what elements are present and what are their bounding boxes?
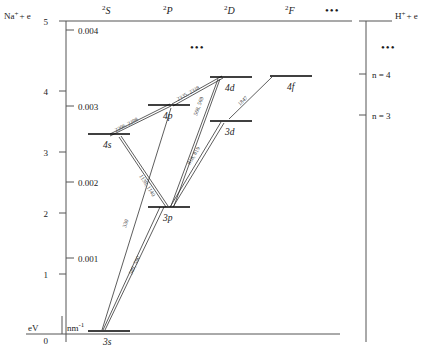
hydrogen-ion-label: H++ e xyxy=(395,10,418,21)
tick-label-wav-0004: 0.004 xyxy=(78,26,99,36)
transition-label-4d-3p: 568, 569 xyxy=(192,96,204,117)
tick-label-wav-0002: 0.002 xyxy=(78,178,98,188)
transition-label-4p-4s: 2206, 2208 xyxy=(114,116,139,133)
transition-label-3d-3p: 818, 819 xyxy=(186,145,201,165)
level-label-4d: 4d xyxy=(225,83,235,93)
levels-ellipsis-na: ••• xyxy=(190,41,205,53)
tick-label-ev-3: 3 xyxy=(44,148,49,158)
column-header-doublet-s: 2S xyxy=(102,4,111,16)
transition-label-4p-3s: 330 xyxy=(121,218,129,228)
unit-label-ev: eV xyxy=(28,323,39,333)
level-label-4s: 4s xyxy=(103,140,112,150)
hydrogen-level-label-n4: n = 4 xyxy=(372,70,391,80)
level-label-3s: 3s xyxy=(102,337,112,347)
transition-4s-3p-b xyxy=(121,136,168,206)
transition-4f-3d xyxy=(229,77,272,119)
transition-label-3p-3s: 589, 590 xyxy=(127,255,141,275)
tick-label-ev-5: 5 xyxy=(44,17,49,27)
tick-label-wav-0001: 0.001 xyxy=(78,254,98,264)
column-header-more-terms: ••• xyxy=(325,4,340,16)
tick-label-ev-4: 4 xyxy=(44,87,49,97)
transition-3d-3p-b xyxy=(173,123,224,207)
transition-4p-3s xyxy=(102,108,171,330)
tick-label-ev-2: 2 xyxy=(44,209,49,219)
na-ion-label: Na++ e xyxy=(4,10,31,21)
column-header-doublet-d: 2D xyxy=(224,4,236,16)
unit-label-nm: nm-1 xyxy=(67,321,85,333)
level-label-3d: 3d xyxy=(224,127,235,137)
transition-3d-3p-a xyxy=(170,122,221,207)
column-header-doublet-f: 2F xyxy=(285,4,296,16)
column-header-doublet-p: 2P xyxy=(163,4,173,16)
level-label-4p: 4p xyxy=(163,111,173,121)
tick-label-ev-1: 1 xyxy=(44,270,49,280)
energy-level-diagram: Na++ e 2S 2P 2D 2F ••• 5 4 3 2 1 0 0.004… xyxy=(0,0,430,354)
level-label-4f: 4f xyxy=(287,82,296,92)
hydrogen-level-label-n3: n = 3 xyxy=(372,111,391,121)
hydrogen-levels-ellipsis: ••• xyxy=(381,41,396,53)
tick-label-ev-0: 0 xyxy=(44,336,49,346)
level-label-3p: 3p xyxy=(162,213,173,223)
transition-label-4f-3d: 1847 xyxy=(237,94,249,106)
tick-label-wav-0003: 0.003 xyxy=(78,102,99,112)
